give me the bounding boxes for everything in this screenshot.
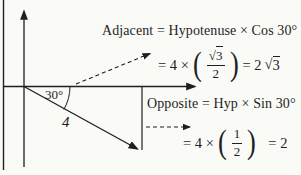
radicand: 3 bbox=[216, 46, 223, 63]
opposite-fraction: 1 2 bbox=[232, 127, 243, 160]
opposite-equation: = 4 × ( 1 2 ) = 2 bbox=[183, 126, 287, 160]
hypotenuse-label: 4 bbox=[62, 114, 70, 131]
opposite-heading: Opposite = Hyp × Sin 30° bbox=[147, 96, 296, 112]
adjacent-fraction-denominator: 2 bbox=[212, 66, 219, 82]
angle-arc bbox=[64, 87, 70, 110]
opposite-step-prefix: = 4 × bbox=[183, 135, 214, 152]
radical-sign: √ bbox=[265, 56, 273, 73]
close-paren: ) bbox=[247, 126, 256, 159]
adjacent-equation: = 4 × ( √3 2 ) = 2 √3 bbox=[158, 46, 280, 84]
adjacent-fraction: √3 2 bbox=[207, 49, 225, 82]
radicand: 3 bbox=[273, 56, 280, 75]
opposite-result: = 2 bbox=[268, 135, 287, 152]
adjacent-fraction-numerator: √3 bbox=[207, 49, 225, 66]
adjacent-step-prefix: = 4 × bbox=[158, 57, 189, 74]
angle-label: 30° bbox=[45, 87, 63, 103]
hypotenuse-line bbox=[24, 87, 138, 150]
adjacent-heading: Adjacent = Hypotenuse × Cos 30° bbox=[102, 23, 297, 39]
adjacent-result-prefix: = 2 bbox=[243, 57, 262, 74]
adjacent-dashed-arrow bbox=[76, 54, 150, 85]
trigonometry-figure: Adjacent = Hypotenuse × Cos 30° = 4 × ( … bbox=[0, 0, 301, 175]
open-paren: ( bbox=[218, 126, 227, 159]
close-paren: ) bbox=[230, 48, 239, 81]
opposite-fraction-denominator: 2 bbox=[234, 144, 241, 160]
adjacent-result-radical-group: √3 bbox=[265, 56, 280, 75]
opposite-fraction-numerator: 1 bbox=[232, 127, 243, 144]
radical-sign: √ bbox=[209, 48, 216, 63]
open-paren: ( bbox=[193, 48, 202, 81]
